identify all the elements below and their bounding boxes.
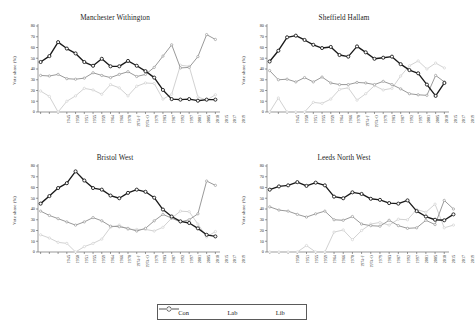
series-marker-con xyxy=(268,60,271,63)
series-marker-lib xyxy=(127,95,129,97)
series-marker-con xyxy=(323,184,326,187)
series-marker-lib xyxy=(452,224,454,226)
series-marker-con xyxy=(170,98,173,101)
series-marker-con xyxy=(74,170,77,173)
series-marker-con xyxy=(109,65,112,68)
plot-area xyxy=(233,154,455,286)
series-marker-lib xyxy=(347,87,349,89)
series-marker-lab xyxy=(443,199,445,201)
series-marker-con xyxy=(144,70,147,73)
series-marker-lib xyxy=(153,82,155,84)
series-marker-con xyxy=(83,60,86,63)
series-marker-lib xyxy=(92,89,94,91)
series-marker-lib xyxy=(295,111,297,113)
series-marker-lib xyxy=(83,245,85,247)
series-marker-lab xyxy=(74,224,76,226)
series-marker-lab xyxy=(205,33,207,35)
series-marker-con xyxy=(118,65,121,68)
series-marker-lab xyxy=(426,94,428,96)
x-tick-label: 2017 xyxy=(461,115,466,139)
series-marker-con xyxy=(294,34,297,37)
legend-item-lab[interactable]: Lab xyxy=(227,309,237,316)
series-marker-lib xyxy=(303,111,305,113)
chart-legend: ConLabLib xyxy=(157,304,307,320)
series-marker-lab xyxy=(269,206,271,208)
series-marker-lib xyxy=(101,238,103,240)
series-marker-con xyxy=(424,215,427,218)
series-marker-con xyxy=(188,98,191,101)
series-marker-con xyxy=(369,197,372,200)
series-marker-lab xyxy=(48,214,50,216)
series-marker-lib xyxy=(269,251,271,253)
series-marker-lib xyxy=(278,251,280,253)
series-marker-lab xyxy=(214,184,216,186)
series-marker-lib xyxy=(287,251,289,253)
series-marker-lib xyxy=(330,98,332,100)
series-marker-lib xyxy=(268,111,270,113)
legend-item-con[interactable]: Con xyxy=(178,309,189,316)
series-marker-con xyxy=(196,227,199,230)
series-marker-con xyxy=(83,179,86,182)
series-marker-lib xyxy=(434,203,436,205)
series-marker-lab xyxy=(136,230,138,232)
series-marker-con xyxy=(332,195,335,198)
series-marker-lab xyxy=(83,221,85,223)
series-marker-con xyxy=(65,182,68,185)
series-marker-con xyxy=(364,51,367,54)
series-marker-lab xyxy=(57,218,59,220)
legend-item-lib[interactable]: Lib xyxy=(276,309,285,316)
series-marker-lib xyxy=(48,237,50,239)
series-marker-con xyxy=(443,81,446,84)
series-marker-lib xyxy=(338,88,340,90)
series-marker-con xyxy=(443,219,446,222)
series-marker-lab xyxy=(287,210,289,212)
series-marker-lib xyxy=(408,65,410,67)
series-marker-lib xyxy=(179,210,181,212)
series-marker-con xyxy=(179,220,182,223)
chart-panel: Manchester Withington0102030405060708019… xyxy=(4,14,226,146)
series-marker-con xyxy=(399,63,402,66)
series-marker-con xyxy=(434,94,437,97)
series-marker-lab xyxy=(397,225,399,227)
series-line-lib xyxy=(270,61,445,112)
series-marker-lib xyxy=(214,94,216,96)
series-marker-con xyxy=(287,184,290,187)
series-marker-con xyxy=(303,38,306,41)
series-marker-lab xyxy=(434,74,436,76)
series-marker-lab xyxy=(400,88,402,90)
series-marker-lab xyxy=(305,216,307,218)
series-marker-lab xyxy=(406,227,408,229)
series-marker-con xyxy=(277,185,280,188)
series-marker-lib xyxy=(66,100,68,102)
series-marker-lib xyxy=(382,89,384,91)
series-marker-lab xyxy=(205,180,207,182)
series-marker-con xyxy=(126,191,129,194)
series-marker-lab xyxy=(295,81,297,83)
series-marker-con xyxy=(48,195,51,198)
series-marker-con xyxy=(338,53,341,56)
series-marker-con xyxy=(92,186,95,189)
series-marker-lab xyxy=(342,219,344,221)
series-marker-lab xyxy=(388,219,390,221)
series-marker-lab xyxy=(144,73,146,75)
series-marker-lib xyxy=(425,211,427,213)
series-marker-con xyxy=(144,190,147,193)
series-marker-lab xyxy=(277,79,279,81)
series-marker-lab xyxy=(333,219,335,221)
series-marker-lab xyxy=(425,219,427,221)
series-marker-con xyxy=(135,188,138,191)
series-marker-lab xyxy=(278,209,280,211)
series-marker-con xyxy=(347,55,350,58)
series-marker-con xyxy=(205,98,208,101)
series-marker-lib xyxy=(360,229,362,231)
series-marker-con xyxy=(268,188,271,191)
series-marker-lib xyxy=(443,67,445,69)
series-marker-con xyxy=(329,45,332,48)
series-marker-lab xyxy=(92,72,94,74)
series-marker-con xyxy=(170,215,173,218)
series-marker-lib xyxy=(443,227,445,229)
chart-panel: Leeds North West010203040506070801950195… xyxy=(233,154,455,286)
series-marker-lab xyxy=(370,225,372,227)
plot-area xyxy=(4,14,226,146)
series-marker-lib xyxy=(324,251,326,253)
